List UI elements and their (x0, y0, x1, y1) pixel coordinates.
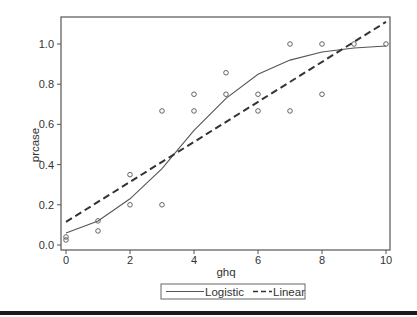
plot-frame (61, 17, 390, 250)
data-point (256, 109, 261, 114)
y-axis: 0.00.20.40.60.81.0 (39, 38, 61, 251)
data-point (288, 109, 293, 114)
x-tick-label: 2 (127, 254, 133, 266)
x-tick-label: 4 (191, 254, 197, 266)
y-tick-label: 0.2 (39, 199, 54, 211)
data-point (320, 42, 325, 47)
data-point (128, 203, 133, 208)
data-point (160, 203, 165, 208)
data-point (352, 42, 357, 47)
bottom-rule (0, 311, 417, 315)
x-tick-label: 0 (63, 254, 69, 266)
data-point (96, 229, 101, 234)
data-point (224, 70, 229, 75)
data-point (288, 42, 293, 47)
x-axis-title: ghq (216, 266, 235, 278)
legend: Logistic Linear (161, 284, 305, 299)
data-point (64, 238, 69, 243)
logistic-fit-line (66, 46, 386, 233)
data-point (320, 92, 325, 97)
data-point (160, 109, 165, 114)
x-tick-label: 6 (255, 254, 261, 266)
y-tick-label: 1.0 (39, 38, 54, 50)
data-point (192, 92, 197, 97)
data-points (64, 42, 389, 243)
data-point (224, 92, 229, 97)
linear-fit-line (66, 22, 386, 222)
x-tick-label: 8 (319, 254, 325, 266)
y-axis-title: prcase (29, 128, 41, 163)
legend-logistic-label: Logistic (205, 286, 244, 298)
chart: 0.00.20.40.60.81.0 0246810 ghq prcase Lo… (0, 0, 417, 317)
data-point (192, 109, 197, 114)
data-point (128, 172, 133, 177)
legend-linear-label: Linear (273, 286, 305, 298)
data-point (256, 92, 261, 97)
x-axis: 0246810 (63, 250, 392, 266)
y-tick-label: 0.0 (39, 239, 54, 251)
y-tick-label: 0.8 (39, 78, 54, 90)
fit-lines (66, 22, 386, 233)
x-tick-label: 10 (380, 254, 392, 266)
